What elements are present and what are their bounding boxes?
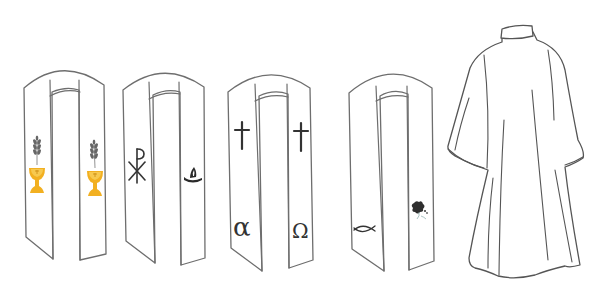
alpha-icon: α xyxy=(233,212,251,242)
stole-alpha-omega: α Ω xyxy=(228,75,313,271)
vestments-illustration: Liturgical vestments: four stoles and an… xyxy=(0,0,605,282)
stole-chi-rho xyxy=(123,73,205,265)
omega-icon: Ω xyxy=(292,219,309,243)
collar xyxy=(501,25,533,38)
alb xyxy=(448,25,584,277)
stole-ichthys xyxy=(349,74,434,271)
stole-eucharist xyxy=(24,71,106,260)
vestments-drawing: α Ω xyxy=(0,0,605,282)
